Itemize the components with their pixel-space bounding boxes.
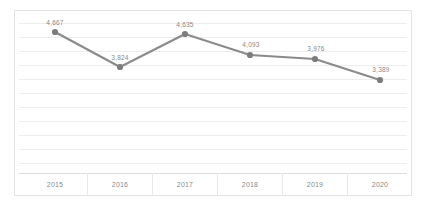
data-label: 4,635 <box>176 22 193 29</box>
data-point <box>117 64 123 70</box>
data-label: 3,389 <box>372 67 389 74</box>
data-label: 4,093 <box>242 42 259 49</box>
data-point <box>247 52 253 58</box>
x-axis-label-2016: 2016 <box>112 181 128 188</box>
x-axis-label-2019: 2019 <box>307 181 323 188</box>
plot-area: 4,667 3,824 4,635 4,093 3,976 3,389 2015… <box>15 11 411 195</box>
x-axis-label-2020: 2020 <box>372 181 388 188</box>
data-point <box>312 56 318 62</box>
series-line <box>55 32 380 80</box>
data-point <box>377 77 383 83</box>
data-label: 3,976 <box>307 46 324 53</box>
x-axis-label-2015: 2015 <box>47 181 63 188</box>
data-label: 4,667 <box>46 20 63 27</box>
line-series <box>15 11 413 197</box>
data-point <box>182 31 188 37</box>
x-axis-label-2018: 2018 <box>242 181 258 188</box>
data-point <box>52 29 58 35</box>
x-axis-label-2017: 2017 <box>177 181 193 188</box>
data-label: 3,824 <box>111 55 128 62</box>
chart-container: 4,667 3,824 4,635 4,093 3,976 3,389 2015… <box>14 10 412 196</box>
